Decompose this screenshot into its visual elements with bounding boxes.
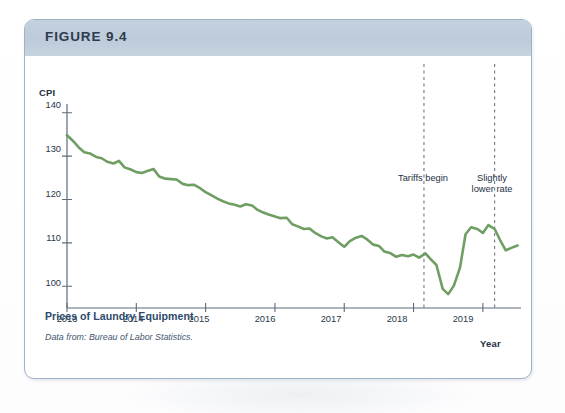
- figure-header-bar: FIGURE 9.4: [25, 20, 531, 56]
- figure-caption-title: Prices of Laundry Equipment: [45, 310, 194, 322]
- figure-number-label: FIGURE 9.4: [45, 29, 128, 44]
- figure-card: FIGURE 9.4 CPI Year 140 130 120 110 100 …: [24, 19, 532, 379]
- figure-caption-source: Data from: Bureau of Labor Statistics.: [45, 332, 193, 342]
- cpi-data-line: [67, 135, 518, 294]
- chart-svg: [25, 56, 532, 379]
- chart-plot-area: CPI Year 140 130 120 110 100 2013 2014 2…: [25, 56, 532, 379]
